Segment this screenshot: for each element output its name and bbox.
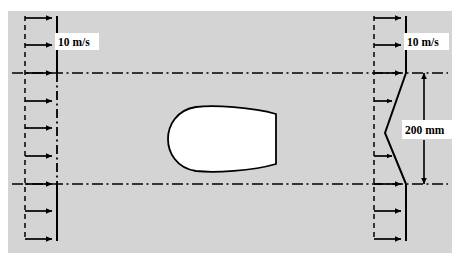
outlet-velocity-label: 10 m/s <box>404 33 449 50</box>
streamlined-body <box>168 106 276 171</box>
inlet-velocity-label: 10 m/s <box>55 33 99 50</box>
wake-height-label: 200 mm <box>402 120 454 139</box>
control-volume-diagram: 10 m/s 10 m/s 200 mm <box>0 0 459 268</box>
wake-height-label-text: 200 mm <box>405 124 445 136</box>
outlet-velocity-label-text: 10 m/s <box>407 36 439 48</box>
inlet-velocity-label-text: 10 m/s <box>58 36 90 48</box>
